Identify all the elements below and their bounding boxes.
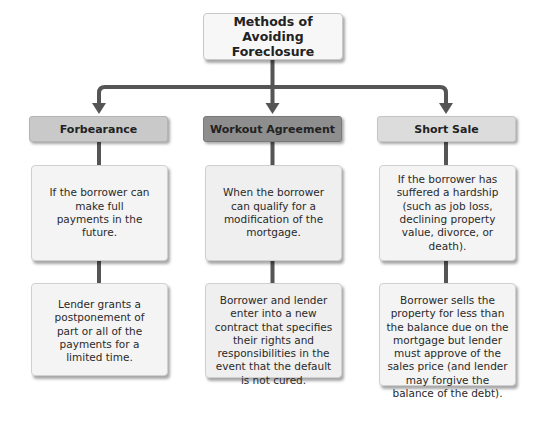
connector-shortsale-2 bbox=[444, 261, 448, 283]
short-sale-outcome-text: Borrower sells the property for less tha… bbox=[385, 284, 510, 400]
connector-shortsale-1 bbox=[444, 142, 448, 165]
arrow-down-icon bbox=[92, 103, 106, 114]
workout-outcome-card: Borrower and lender enter into a new con… bbox=[205, 283, 342, 378]
arrow-down-icon bbox=[439, 103, 453, 114]
connector-workout-1 bbox=[271, 142, 275, 165]
header-forbearance: Forbearance bbox=[29, 116, 168, 142]
workout-outcome-text: Borrower and lender enter into a new con… bbox=[210, 284, 337, 387]
forbearance-outcome-card: Lender grants a postponement of part or … bbox=[31, 283, 168, 376]
connector-forbearance-2 bbox=[97, 261, 101, 283]
forbearance-condition-text: If the borrower can make full payments i… bbox=[48, 186, 151, 239]
title-line-2: Avoiding Foreclosure bbox=[204, 29, 342, 59]
arrow-down-icon bbox=[266, 103, 280, 114]
short-sale-condition-card: If the borrower has suffered a hardship … bbox=[379, 165, 516, 261]
header-forbearance-label: Forbearance bbox=[60, 123, 137, 136]
trunk-line bbox=[271, 60, 275, 87]
short-sale-condition-text: If the borrower has suffered a hardship … bbox=[396, 173, 499, 253]
header-short-sale: Short Sale bbox=[377, 116, 516, 142]
connector-forbearance-1 bbox=[97, 142, 101, 165]
header-short-sale-label: Short Sale bbox=[414, 123, 478, 136]
forbearance-outcome-text: Lender grants a postponement of part or … bbox=[50, 284, 149, 364]
short-sale-outcome-card: Borrower sells the property for less tha… bbox=[379, 283, 516, 386]
header-workout-agreement-label: Workout Agreement bbox=[210, 123, 335, 136]
forbearance-condition-card: If the borrower can make full payments i… bbox=[31, 165, 168, 261]
connector-workout-2 bbox=[271, 261, 275, 283]
diagram-title-box: Methods of Avoiding Foreclosure bbox=[203, 13, 343, 60]
workout-condition-text: When the borrower can qualify for a modi… bbox=[220, 186, 327, 239]
header-workout-agreement: Workout Agreement bbox=[203, 116, 342, 142]
workout-condition-card: When the borrower can qualify for a modi… bbox=[205, 165, 342, 261]
title-line-1: Methods of bbox=[204, 14, 342, 29]
